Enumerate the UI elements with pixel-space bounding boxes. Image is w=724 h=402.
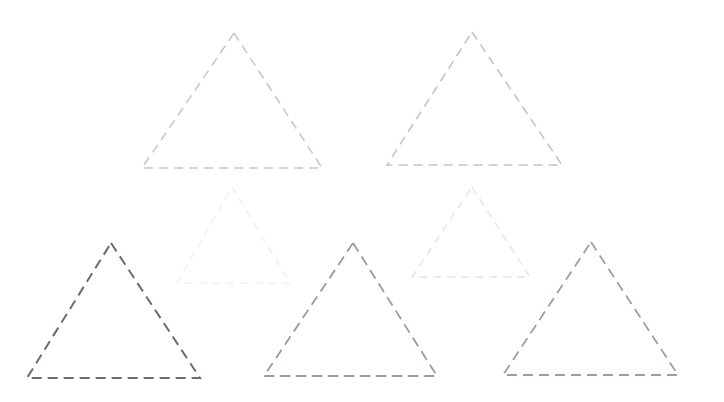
triangle-7 — [503, 242, 678, 375]
triangle-1 — [142, 33, 322, 168]
triangle-2 — [387, 32, 562, 165]
triangle-4 — [412, 187, 530, 277]
triangle-6 — [264, 243, 437, 376]
figure-canvas — [0, 0, 724, 402]
triangle-5 — [27, 243, 200, 378]
triangles-svg — [0, 0, 724, 402]
triangle-3 — [177, 187, 290, 283]
